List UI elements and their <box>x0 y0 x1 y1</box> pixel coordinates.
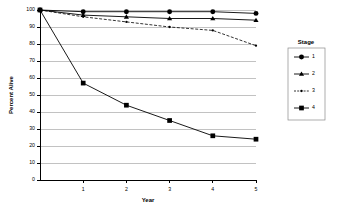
x-axis-ticks: 12345 <box>82 180 258 192</box>
survival-chart: 0102030405060708090100 12345 Percent Ali… <box>0 0 342 207</box>
y-tick-label: 50 <box>29 91 35 97</box>
legend-marker-square <box>299 106 304 111</box>
data-point <box>254 137 259 142</box>
y-tick-label: 0 <box>32 176 35 182</box>
data-point <box>210 9 215 14</box>
data-point <box>38 8 43 13</box>
data-point <box>124 9 129 14</box>
x-tick-label: 5 <box>255 186 258 192</box>
legend-item-label: 4 <box>312 104 315 110</box>
data-point <box>212 29 214 31</box>
legend-item-label: 2 <box>312 70 315 76</box>
y-tick-label: 100 <box>26 6 35 12</box>
series-2 <box>37 7 258 22</box>
y-tick-label: 30 <box>29 125 35 131</box>
data-point <box>82 16 84 18</box>
legend-marker-circle <box>299 55 304 60</box>
x-tick-label: 1 <box>82 186 85 192</box>
y-tick-label: 40 <box>29 108 35 114</box>
y-tick-label: 80 <box>29 40 35 46</box>
data-point <box>167 118 172 123</box>
data-point <box>167 9 172 14</box>
data-point <box>255 45 257 47</box>
data-point <box>254 11 259 16</box>
data-series <box>37 7 258 141</box>
legend-frame <box>288 48 325 120</box>
series-4 <box>38 8 259 142</box>
legend-marker-dot <box>300 90 302 92</box>
chart-canvas: 0102030405060708090100 12345 Percent Ali… <box>0 0 342 207</box>
legend: Stage 1234 <box>288 39 325 120</box>
gridlines <box>40 10 256 163</box>
x-tick-label: 2 <box>125 186 128 192</box>
x-tick-label: 3 <box>168 186 171 192</box>
data-point <box>81 81 86 86</box>
x-tick-label: 4 <box>211 186 214 192</box>
series-3 <box>39 9 257 47</box>
data-point <box>168 26 170 28</box>
legend-title: Stage <box>298 39 315 45</box>
legend-item-label: 3 <box>312 87 315 93</box>
y-axis-title: Percent Alive <box>8 75 14 113</box>
data-point <box>125 21 127 23</box>
legend-item-label: 1 <box>312 53 315 59</box>
x-axis-title: Year <box>142 197 155 203</box>
data-point <box>124 103 129 108</box>
y-tick-label: 90 <box>29 23 35 29</box>
y-tick-label: 70 <box>29 57 35 63</box>
y-tick-label: 10 <box>29 159 35 165</box>
y-tick-label: 20 <box>29 142 35 148</box>
y-axis-ticks: 0102030405060708090100 <box>26 6 40 182</box>
y-tick-label: 60 <box>29 74 35 80</box>
data-point <box>210 133 215 138</box>
series-1 <box>38 8 259 16</box>
